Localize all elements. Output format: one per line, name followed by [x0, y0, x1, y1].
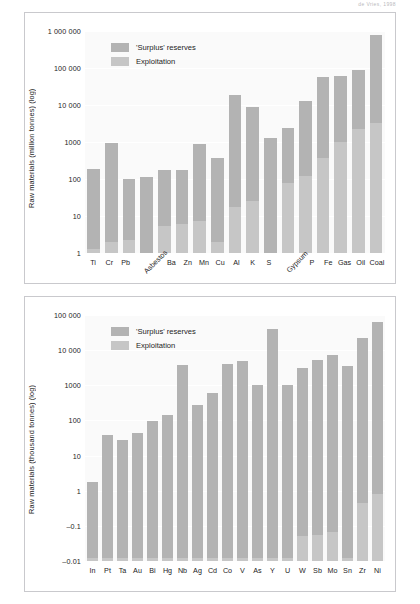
stacked-bar [282, 128, 295, 253]
stacked-bar [207, 393, 218, 561]
x-tick-slot: P [304, 255, 320, 285]
x-tick-slot: Mn [196, 255, 212, 285]
bar-segment-exploitation [162, 558, 173, 561]
stacked-bar [192, 405, 203, 561]
y-tick-label: 100 000 [54, 311, 81, 320]
bar-slot [244, 31, 262, 253]
y-tick-label: 100 [69, 175, 81, 184]
x-tick-slot: Co [220, 563, 235, 591]
bar-slot [280, 315, 295, 561]
bar-segment-surplus-reserves [370, 35, 383, 123]
x-tick-label: Ta [119, 563, 127, 591]
legend-item: Exploitation [111, 341, 196, 350]
stacked-bar [252, 385, 263, 561]
stacked-bar [264, 138, 277, 253]
bar-segment-exploitation [105, 242, 118, 253]
bar-segment-surplus-reserves [352, 70, 365, 129]
stacked-bar [342, 366, 353, 561]
stacked-bar [222, 364, 233, 561]
bar-slot [314, 31, 332, 253]
x-tick-slot: Zr [355, 563, 370, 591]
stacked-bar [237, 361, 248, 561]
stacked-bar [312, 360, 323, 561]
x-tick-label: Sb [313, 563, 322, 591]
bar-segment-exploitation [312, 535, 323, 561]
y-tick-label: 1 [77, 249, 81, 258]
legend-swatch-exploitation [111, 341, 129, 350]
x-tick-slot: Cu [212, 255, 228, 285]
bar-segment-surplus-reserves [334, 76, 347, 142]
stacked-bar [158, 170, 171, 253]
bar-slot [250, 315, 265, 561]
x-tick-slot: S [261, 255, 277, 285]
x-tick-label: Ti [90, 255, 96, 285]
y-tick-label: 10 000 [58, 346, 81, 355]
bar-slot [340, 315, 355, 561]
x-tick-slot: Pt [100, 563, 115, 591]
bar-segment-exploitation [132, 558, 143, 561]
x-tick-slot: Bi [145, 563, 160, 591]
bar-segment-exploitation [246, 201, 259, 253]
stacked-bar [117, 440, 128, 561]
x-tick-slot: Oil [353, 255, 369, 285]
bar-segment-surplus-reserves [117, 440, 128, 558]
bar-segment-exploitation [193, 221, 206, 253]
x-tick-slot: Nb [175, 563, 190, 591]
bar-slot [261, 31, 279, 253]
bar-segment-exploitation [282, 183, 295, 253]
y-tick-label: 10 [73, 212, 81, 221]
bar-slot [226, 31, 244, 253]
stacked-bar [267, 329, 278, 561]
bar-segment-surplus-reserves [105, 143, 118, 242]
bar-segment-surplus-reserves [158, 170, 171, 226]
bar-segment-exploitation [177, 558, 188, 561]
x-tick-slot: Ta [115, 563, 130, 591]
x-tick-slot: Ni [370, 563, 385, 591]
x-tick-slot: Hg [160, 563, 175, 591]
bar-segment-surplus-reserves [282, 385, 293, 559]
stacked-bar [352, 70, 365, 253]
bar-segment-surplus-reserves [192, 405, 203, 558]
legend-bottom: 'Surplus' reservesExploitation [111, 327, 196, 355]
bar-segment-surplus-reserves [162, 415, 173, 558]
legend-label: 'Surplus' reserves [136, 43, 196, 52]
stacked-bar [211, 158, 224, 253]
bar-segment-surplus-reserves [193, 144, 206, 221]
y-axis-title-bottom: Raw materials (thousand tonnes) (log) [27, 342, 36, 557]
x-tick-slot: Gas [336, 255, 352, 285]
x-tick-label: Ba [167, 255, 176, 285]
bar-segment-exploitation [123, 240, 136, 253]
y-axis-labels-top: 1 000 000100 00010 0001000100101 [37, 13, 83, 283]
running-head: de Vries, 1998 [0, 0, 420, 9]
x-tick-label: Au [133, 563, 142, 591]
bar-segment-surplus-reserves [357, 338, 368, 503]
legend-item: 'Surplus' reserves [111, 327, 196, 336]
x-tick-label: Hg [163, 563, 172, 591]
legend-swatch-surplus-reserves [111, 43, 129, 52]
bar-segment-surplus-reserves [222, 364, 233, 558]
x-tick-label: Mo [328, 563, 338, 591]
bar-segment-surplus-reserves [299, 101, 312, 176]
bar-segment-surplus-reserves [211, 158, 224, 241]
x-tick-label: U [285, 563, 290, 591]
bar-segment-exploitation [372, 494, 383, 561]
bar-segment-surplus-reserves [147, 421, 158, 558]
bar-segment-exploitation [87, 558, 98, 561]
bar-slot [367, 31, 385, 253]
bar-segment-exploitation [334, 142, 347, 253]
bar-segment-surplus-reserves [267, 329, 278, 558]
x-tick-label: Zr [359, 563, 366, 591]
stacked-bar [357, 338, 368, 561]
stacked-bar [282, 385, 293, 561]
x-tick-label: Pt [104, 563, 111, 591]
x-tick-slot: Ba [163, 255, 179, 285]
x-tick-label: Ag [193, 563, 202, 591]
bar-segment-surplus-reserves [246, 107, 259, 202]
bar-segment-exploitation [192, 558, 203, 561]
bar-slot [325, 315, 340, 561]
x-tick-slot: Coal [369, 255, 385, 285]
bar-slot [295, 315, 310, 561]
stacked-bar [229, 95, 242, 253]
stacked-bar [87, 482, 98, 561]
x-tick-slot: Gypsum [277, 255, 304, 285]
